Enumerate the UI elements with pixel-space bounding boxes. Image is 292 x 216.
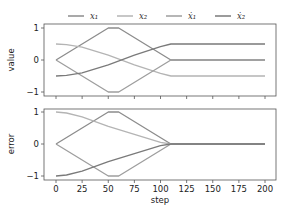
legend-label: x₁ <box>90 11 98 21</box>
x-tick-label: 50 <box>103 184 114 194</box>
chart-figure: x₁x₂ẋ₁ẋ₂ 10−1 value 10−1 025507510012515… <box>0 0 292 216</box>
x-tick-label: 25 <box>77 184 88 194</box>
x-tick-label: 0 <box>53 184 58 194</box>
line-series-x1dot <box>56 144 265 176</box>
top-y-axis-label: value <box>6 48 16 71</box>
bottom-panel-lines <box>56 112 265 176</box>
legend: x₁x₂ẋ₁ẋ₂ <box>68 11 246 21</box>
x-tick-label: 150 <box>205 184 221 194</box>
bottom-y-axis-label: error <box>6 133 16 154</box>
y-tick-label: 1 <box>34 107 39 117</box>
line-series-x2dot <box>56 144 265 176</box>
legend-label: ẋ₁ <box>188 11 196 21</box>
legend-label: x₂ <box>139 11 148 21</box>
bottom-y-ticks: 10−1 <box>26 107 44 181</box>
top-x-ticks <box>56 96 265 99</box>
x-tick-label: 200 <box>257 184 273 194</box>
line-series-x1 <box>56 112 265 144</box>
line-series-x2 <box>56 112 265 144</box>
bottom-panel-error: 10−1 0255075100125150175200 error step <box>6 107 276 205</box>
legend-label: ẋ₂ <box>237 11 246 21</box>
y-tick-label: 1 <box>34 23 39 33</box>
bottom-x-ticks: 0255075100125150175200 <box>53 180 273 194</box>
x-tick-label: 125 <box>179 184 195 194</box>
y-tick-label: 0 <box>34 55 39 65</box>
x-tick-label: 100 <box>152 184 168 194</box>
y-tick-label: 0 <box>34 139 39 149</box>
x-axis-label: step <box>151 195 169 205</box>
top-y-ticks: 10−1 <box>26 23 44 97</box>
top-panel-value: 10−1 value <box>6 23 276 99</box>
y-tick-label: −1 <box>26 87 39 97</box>
x-tick-label: 175 <box>231 184 247 194</box>
x-tick-label: 75 <box>129 184 140 194</box>
y-tick-label: −1 <box>26 171 39 181</box>
top-panel-lines <box>56 28 265 92</box>
